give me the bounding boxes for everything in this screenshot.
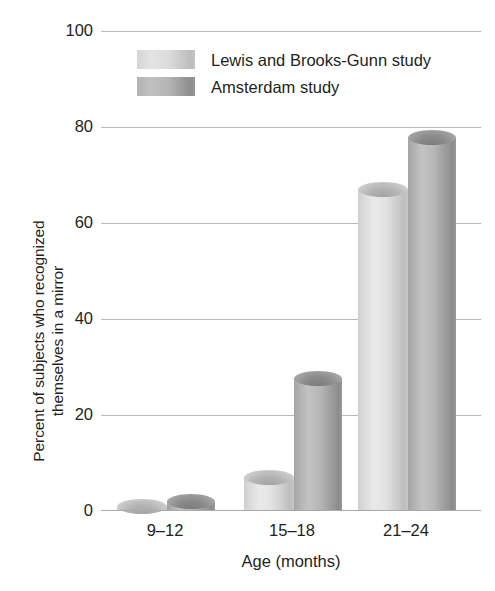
bar-body	[294, 378, 342, 511]
bar-15-18-amsterdam	[294, 378, 342, 511]
legend-label-amsterdam: Amsterdam study	[211, 78, 339, 96]
bar-21-24-amsterdam	[408, 137, 456, 511]
y-tick-label-20: 20	[49, 406, 93, 423]
legend-item-amsterdam: Amsterdam study	[137, 73, 431, 100]
legend-swatch-icon-lewis	[137, 50, 195, 69]
y-tick-label-80: 80	[49, 118, 93, 135]
y-tick-label-40: 40	[49, 310, 93, 327]
legend-swatch-icon-amsterdam	[137, 77, 195, 96]
x-axis-baseline	[101, 510, 481, 511]
bar-chart-figure: Percent of subjects who recognized thems…	[0, 0, 495, 591]
bar-cap-top	[167, 494, 215, 509]
bar-cap-top	[244, 470, 294, 485]
bar-body	[408, 137, 456, 511]
legend-item-lewis: Lewis and Brooks-Gunn study	[137, 46, 431, 73]
y-tick-label-60: 60	[49, 214, 93, 231]
bar-cap-top	[117, 499, 167, 514]
legend-label-lewis: Lewis and Brooks-Gunn study	[211, 51, 431, 69]
bar-body	[358, 189, 408, 511]
y-axis-title: Percent of subjects who recognized thems…	[29, 141, 67, 541]
bar-cap-top	[294, 371, 342, 386]
y-axis-title-line-2: themselves in a mirror	[48, 141, 67, 541]
x-tick-label-9-12: 9–12	[105, 521, 225, 539]
x-tick-label-15-18: 15–18	[232, 521, 352, 539]
bar-cap-top	[408, 130, 456, 145]
y-axis-title-line-1: Percent of subjects who recognized	[29, 141, 48, 541]
gridline-80	[101, 127, 481, 128]
x-tick-label-21-24: 21–24	[346, 521, 466, 539]
y-tick-label-100: 100	[49, 22, 93, 39]
y-tick-label-0: 0	[49, 502, 93, 519]
bar-cap-top	[358, 182, 408, 197]
bar-21-24-lewis	[358, 189, 408, 511]
x-axis-title: Age (months)	[101, 552, 481, 570]
plot-area	[101, 31, 481, 511]
chart-legend: Lewis and Brooks-Gunn study Amsterdam st…	[137, 46, 431, 100]
bar-15-18-lewis	[244, 477, 294, 511]
gridline-100	[101, 31, 481, 32]
